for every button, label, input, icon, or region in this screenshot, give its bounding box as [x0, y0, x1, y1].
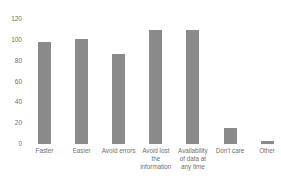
category-label: Other — [246, 147, 281, 155]
bar — [75, 39, 88, 144]
y-axis-tick-label: 60 — [0, 78, 22, 85]
y-axis-tick-label: 100 — [0, 37, 22, 44]
y-axis-tick-label: 0 — [0, 141, 22, 148]
category-label: Avoid errors — [98, 147, 140, 155]
bar — [224, 128, 237, 144]
bar — [38, 42, 51, 144]
bar — [261, 141, 274, 144]
category-label: Avoid lost the information — [135, 147, 177, 170]
y-axis-tick-label: 20 — [0, 120, 22, 127]
y-axis-tick-label: 120 — [0, 16, 22, 23]
y-axis-tick-label: 80 — [0, 58, 22, 65]
bar — [186, 30, 199, 144]
category-label: Faster — [24, 147, 66, 155]
bar-chart: 020406080100120 FasterEasierAvoid errors… — [0, 0, 281, 178]
category-label: Don't care — [209, 147, 251, 155]
bar — [112, 54, 125, 144]
category-label: Availability of data at any time — [172, 147, 214, 170]
y-axis-tick-label: 40 — [0, 99, 22, 106]
bar — [149, 30, 162, 144]
category-label: Easier — [61, 147, 103, 155]
